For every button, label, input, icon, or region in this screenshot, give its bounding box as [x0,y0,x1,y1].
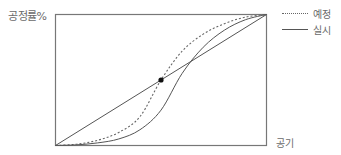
intersection-point-marker [158,77,163,82]
s-curve-chart [0,0,341,155]
series-layer [56,15,267,146]
